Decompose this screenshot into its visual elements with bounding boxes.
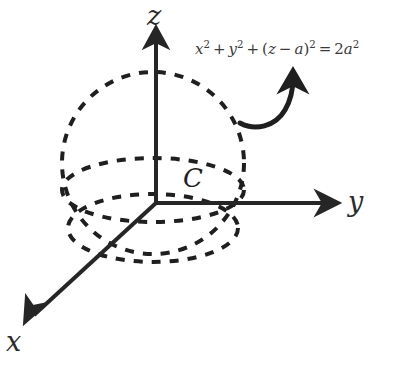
sphere-equation: x2+y2+(z−a)2=2a2 (195, 42, 359, 57)
curve-c-label: C (183, 165, 203, 191)
equation-x-exponent: 2 (203, 39, 209, 50)
equation-rhs-coefficient: 2 (334, 40, 344, 58)
equation-y-exponent: 2 (237, 39, 243, 50)
equation-plus-2: + (244, 40, 263, 58)
sphere-equator-ellipse (62, 158, 244, 222)
sphere-outline-circle (62, 72, 244, 254)
sphere-group (62, 72, 244, 262)
equation-rhs-var: a (344, 40, 353, 58)
z-axis-label: z (147, 2, 161, 29)
sphere-coordinate-diagram: z y x C x2+y2+(z−a)2=2a2 (0, 0, 406, 367)
equation-plus-1: + (210, 40, 229, 58)
y-axis-label: y (348, 188, 363, 215)
x-axis-label: x (6, 328, 21, 355)
equation-equals: = (316, 40, 335, 58)
equation-minus: − (276, 40, 295, 58)
x-axis-arrowhead (24, 296, 48, 324)
equation-z-var: z (268, 40, 276, 58)
equation-paren-exponent: 2 (309, 39, 315, 50)
callout-arrow-group (240, 68, 307, 127)
equation-rhs-exponent: 2 (353, 39, 359, 50)
x-axis-line (34, 203, 156, 315)
equation-y-var: y (229, 40, 237, 58)
